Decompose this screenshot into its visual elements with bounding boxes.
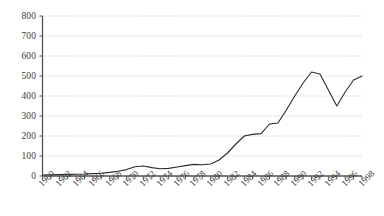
y-axis-tick-label: 200	[6, 131, 36, 141]
y-axis-tick-label: 300	[6, 111, 36, 121]
y-axis-tick-label: 100	[6, 151, 36, 161]
y-axis-tick-label: 700	[6, 31, 36, 41]
data-series-line	[43, 72, 363, 175]
line-chart: 0100200300400500600700800 19601962196419…	[0, 0, 384, 216]
gridlines	[43, 16, 363, 176]
y-axis-tick-label: 800	[6, 11, 36, 21]
y-axis-tick-label: 0	[6, 171, 36, 181]
y-axis-tick-label: 400	[6, 91, 36, 101]
y-axis-tick-label: 600	[6, 51, 36, 61]
axes	[43, 16, 363, 176]
y-axis-tick-label: 500	[6, 71, 36, 81]
